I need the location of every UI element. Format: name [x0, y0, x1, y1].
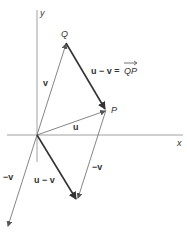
label-u: u [73, 122, 79, 132]
label-QP: QP [124, 66, 137, 76]
vector-QP [66, 43, 105, 109]
vector-neg-v-right [78, 110, 106, 198]
label-neg-v-right: −v [92, 162, 102, 172]
label-u-minus-v: u − v [34, 175, 55, 185]
vector-u-minus-v [37, 135, 76, 199]
label-neg-v-left: −v [3, 172, 13, 182]
x-axis-label: x [176, 138, 182, 148]
point-P-label: P [111, 105, 117, 115]
point-Q-label: Q [61, 29, 68, 39]
y-axis-label: y [39, 8, 45, 18]
label-v: v [43, 78, 48, 88]
vector-v [37, 44, 66, 135]
label-u-minus-v-eq: u − v = [91, 66, 120, 76]
vector-diagram: y x Q P v u u − v = QP u − v −v −v [0, 0, 187, 232]
vector-u [37, 111, 105, 135]
